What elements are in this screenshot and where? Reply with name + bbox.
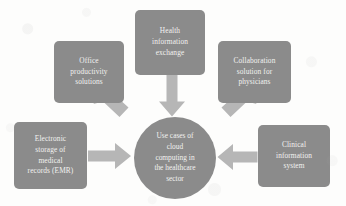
node-health-information-exchange[interactable]: Health information exchange: [135, 10, 205, 75]
healthcare-cloud-use-cases-diagram: Health information exchange Office produ…: [0, 0, 346, 206]
node-label: Office productivity solutions: [70, 56, 107, 88]
hub-use-cases-of-cloud-computing[interactable]: Use cases of cloud computing in the heal…: [134, 117, 216, 199]
node-label: Health information exchange: [152, 26, 188, 58]
arrow-emr-to-hub: [88, 143, 131, 169]
node-electronic-storage-of-medical-records[interactable]: Electronic storage of medical records (E…: [14, 122, 87, 189]
arrow-health-to-hub: [159, 75, 185, 117]
hub-label: Use cases of cloud computing in the heal…: [154, 131, 195, 185]
node-label: Collaboration solution for physicians: [234, 56, 276, 88]
node-office-productivity-solutions[interactable]: Office productivity solutions: [54, 41, 124, 103]
node-label: Clinical information system: [276, 140, 312, 172]
node-collaboration-solution-for-physicians[interactable]: Collaboration solution for physicians: [218, 41, 291, 103]
arrow-clinical-to-hub: [218, 144, 258, 170]
node-clinical-information-system[interactable]: Clinical information system: [258, 125, 330, 187]
node-label: Electronic storage of medical records (E…: [28, 134, 74, 177]
